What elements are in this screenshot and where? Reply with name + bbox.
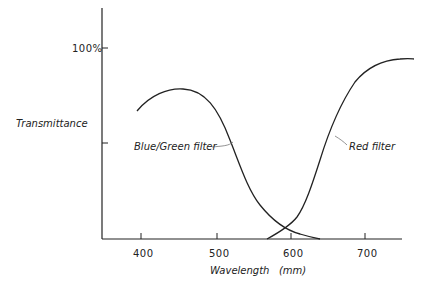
x-tick-label-700: 700: [357, 248, 378, 259]
transmittance-chart: 100% 400 500 600 700 Transmittance Wavel…: [0, 0, 444, 293]
x-axis-label: Wavelength (mm): [210, 265, 306, 276]
blue-green-filter-label: Blue/Green filter: [134, 141, 217, 152]
red-leader: [335, 136, 347, 145]
y-axis-label: Transmittance: [16, 118, 88, 129]
red-filter-label: Red filter: [349, 141, 396, 152]
blue-green-filter-curve: [137, 89, 320, 239]
x-tick-label-400: 400: [133, 248, 154, 259]
x-tick-label-600: 600: [283, 248, 304, 259]
x-tick-label-500: 500: [209, 248, 230, 259]
y-tick-label-100: 100%: [72, 43, 103, 54]
